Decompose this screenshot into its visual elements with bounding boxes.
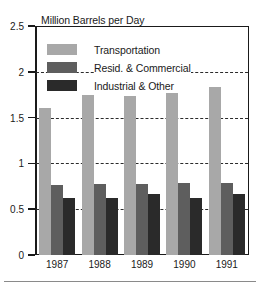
bar <box>209 87 221 255</box>
legend-swatch <box>47 44 77 55</box>
bar <box>82 95 94 255</box>
y-axis-tick-label: 0.5 <box>10 204 24 215</box>
bar <box>63 198 75 255</box>
bar <box>178 183 190 255</box>
legend-item: Resid. & Commercial <box>47 59 191 76</box>
y-axis-tick-label: 1.5 <box>10 112 24 123</box>
y-axis-tick <box>28 208 35 210</box>
bar <box>106 198 118 255</box>
legend-item: Industrial & Other <box>47 77 191 94</box>
legend-label: Transportation <box>94 44 160 56</box>
bar <box>51 185 63 255</box>
bar-group <box>209 26 245 255</box>
y-axis-tick <box>28 117 35 119</box>
y-axis-tick-label: 2 <box>18 66 24 77</box>
x-axis-tick-label: 1991 <box>216 259 238 270</box>
y-axis-tick-label: 2.5 <box>10 21 24 32</box>
legend-label: Resid. & Commercial <box>94 62 191 74</box>
legend-label: Industrial & Other <box>94 80 174 92</box>
legend-item: Transportation <box>47 41 191 58</box>
chart-title: Million Barrels per Day <box>39 14 146 26</box>
chart-legend: TransportationResid. & CommercialIndustr… <box>47 41 191 95</box>
y-axis-tick <box>28 71 35 73</box>
bar <box>221 183 233 255</box>
bar <box>233 194 245 255</box>
y-axis-tick <box>28 25 35 27</box>
bar <box>136 184 148 255</box>
bar <box>148 194 160 255</box>
x-axis-tick-label: 1987 <box>46 259 68 270</box>
y-axis-tick-label: 1 <box>18 158 24 169</box>
bottom-divider <box>4 281 256 282</box>
y-axis-tick <box>28 254 35 256</box>
y-axis-tick-label: 0 <box>18 250 24 261</box>
x-axis-tick-label: 1988 <box>88 259 110 270</box>
bar <box>166 93 178 255</box>
x-axis-tick-label: 1989 <box>131 259 153 270</box>
y-axis-tick <box>28 163 35 165</box>
bar <box>94 184 106 255</box>
bar <box>190 198 202 255</box>
bar <box>39 108 51 255</box>
legend-swatch <box>47 62 77 73</box>
legend-swatch <box>47 80 77 91</box>
x-axis-tick-label: 1990 <box>173 259 195 270</box>
bar <box>124 96 136 255</box>
bar-chart: 00.511.522.5 19871988198919901991 Millio… <box>0 0 262 289</box>
